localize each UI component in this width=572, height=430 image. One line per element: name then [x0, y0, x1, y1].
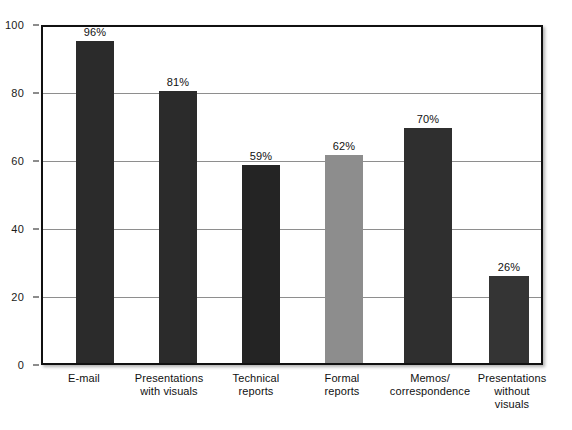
- x-label-presentations-without-visuals: Presentations without visuals: [460, 372, 564, 411]
- bar-value-email: 96%: [84, 26, 107, 38]
- plot-area: 96% 81% 59% 62% 70% 26%: [41, 25, 543, 365]
- x-label-technical-reports-line-2: reports: [212, 385, 300, 398]
- bar-chart: 100 80 60 40 20 0 96% 81% 59% 62%: [0, 0, 572, 430]
- y-tick-label-20: 20: [0, 291, 24, 303]
- x-label-presentations-with-visuals-line-1: Presentations: [119, 372, 219, 385]
- bar-value-presentations-with-visuals: 81%: [167, 76, 190, 88]
- y-tick-label-80: 80: [0, 87, 24, 99]
- x-label-technical-reports: Technical reports: [212, 372, 300, 398]
- x-label-presentations-without-visuals-line-3: visuals: [460, 398, 564, 411]
- y-tick-mark-80: [33, 93, 39, 94]
- bar-value-technical-reports: 59%: [250, 150, 273, 162]
- x-label-presentations-with-visuals: Presentations with visuals: [119, 372, 219, 398]
- y-tick-mark-60: [33, 161, 39, 162]
- gridline-20: [43, 297, 541, 298]
- x-label-email: E-mail: [44, 372, 124, 385]
- bar-value-memos-correspondence: 70%: [417, 113, 440, 125]
- bar-technical-reports[interactable]: 59%: [242, 165, 280, 363]
- y-tick-mark-100: [33, 25, 39, 26]
- bar-email[interactable]: 96%: [76, 41, 114, 363]
- x-label-presentations-with-visuals-line-2: with visuals: [119, 385, 219, 398]
- y-tick-label-0: 0: [0, 359, 24, 371]
- x-label-presentations-without-visuals-line-2: without: [460, 385, 564, 398]
- y-tick-label-100: 100: [0, 19, 24, 31]
- y-tick-label-40: 40: [0, 223, 24, 235]
- gridline-80: [43, 93, 541, 94]
- y-tick-mark-40: [33, 229, 39, 230]
- y-tick-mark-0: [33, 365, 39, 366]
- gridline-40: [43, 229, 541, 230]
- bar-value-presentations-without-visuals: 26%: [498, 261, 521, 273]
- bar-presentations-with-visuals[interactable]: 81%: [159, 91, 197, 363]
- gridline-60: [43, 161, 541, 162]
- y-tick-mark-20: [33, 297, 39, 298]
- bar-formal-reports[interactable]: 62%: [325, 155, 363, 363]
- bar-value-formal-reports: 62%: [333, 140, 356, 152]
- y-tick-label-60: 60: [0, 155, 24, 167]
- x-label-email-line-1: E-mail: [44, 372, 124, 385]
- bar-presentations-without-visuals[interactable]: 26%: [489, 276, 529, 363]
- x-label-presentations-without-visuals-line-1: Presentations: [460, 372, 564, 385]
- bar-memos-correspondence[interactable]: 70%: [404, 128, 452, 363]
- x-label-technical-reports-line-1: Technical: [212, 372, 300, 385]
